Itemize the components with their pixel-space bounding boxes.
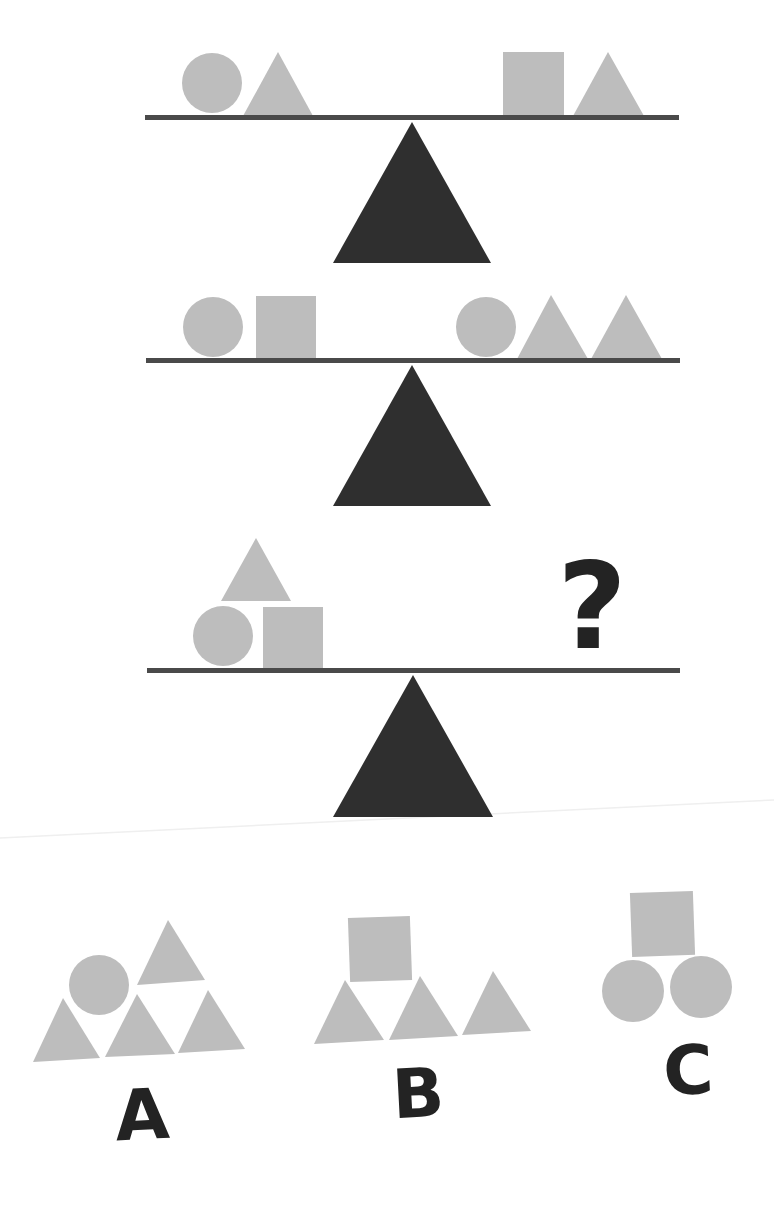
square-shape <box>503 52 564 116</box>
scale-1 <box>145 52 679 263</box>
triangle-shape <box>517 295 588 359</box>
circle-shape <box>602 960 664 1022</box>
scale-2-left-pan <box>183 296 316 358</box>
circle-shape <box>193 606 253 666</box>
option-c-label: C <box>661 1030 715 1112</box>
square-shape <box>256 296 316 358</box>
circle-shape <box>456 297 516 357</box>
scale-3: ? <box>147 537 680 817</box>
triangle-shape <box>243 52 313 116</box>
option-a-label: A <box>113 1073 171 1158</box>
beam <box>145 115 679 120</box>
fulcrum-icon <box>333 365 491 506</box>
square-shape <box>263 607 323 669</box>
beam <box>146 358 680 363</box>
triangle-shape <box>591 295 662 359</box>
option-b-label: B <box>390 1053 446 1135</box>
square-shape <box>630 891 695 957</box>
scale-2-right-pan <box>456 295 662 359</box>
square-shape <box>348 916 412 982</box>
triangle-shape <box>221 538 291 601</box>
triangle-shape <box>314 980 384 1044</box>
option-c[interactable]: C <box>602 891 732 1111</box>
puzzle-canvas: ? A B C <box>0 0 774 1224</box>
scale-3-left-pan <box>193 538 323 669</box>
option-a[interactable]: A <box>33 920 245 1157</box>
triangle-shape <box>573 52 644 116</box>
fulcrum-icon <box>333 675 493 817</box>
circle-shape <box>183 297 243 357</box>
fulcrum-icon <box>333 122 491 263</box>
scale-2 <box>146 295 680 506</box>
beam <box>147 668 680 673</box>
triangle-shape <box>178 990 245 1053</box>
circle-shape <box>182 53 242 113</box>
scale-1-left-pan <box>182 52 313 116</box>
scale-3-right-pan: ? <box>557 537 627 676</box>
circle-shape <box>69 955 129 1015</box>
triangle-shape <box>137 920 205 985</box>
option-b[interactable]: B <box>314 916 531 1134</box>
question-mark-icon: ? <box>557 537 627 676</box>
circle-shape <box>670 956 732 1018</box>
triangle-shape <box>462 971 531 1035</box>
scale-1-right-pan <box>503 52 644 116</box>
triangle-shape <box>389 976 458 1040</box>
